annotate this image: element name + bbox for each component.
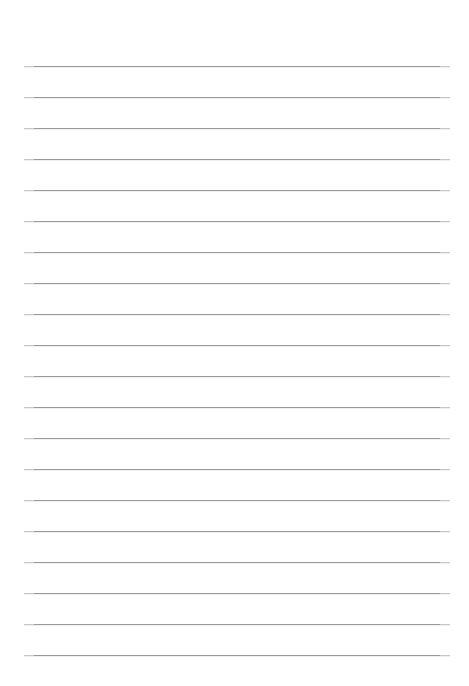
rule-line [24,655,450,656]
rule-line [24,407,450,408]
rule-line [24,221,450,222]
rule-line [24,66,450,67]
rule-line [24,562,450,563]
rule-line [24,252,450,253]
rule-line [24,469,450,470]
rule-line [24,500,450,501]
rule-line [24,376,450,377]
rule-line [24,190,450,191]
rule-line [24,159,450,160]
rule-line [24,283,450,284]
lined-paper-page: Blank ruled notebook page [0,0,469,686]
rule-line [24,128,450,129]
rule-line [24,438,450,439]
rule-line [24,97,450,98]
ruled-writing-area[interactable] [0,0,469,686]
rule-line [24,624,450,625]
rule-line [24,314,450,315]
rule-line [24,531,450,532]
rule-line [24,593,450,594]
rule-line [24,345,450,346]
